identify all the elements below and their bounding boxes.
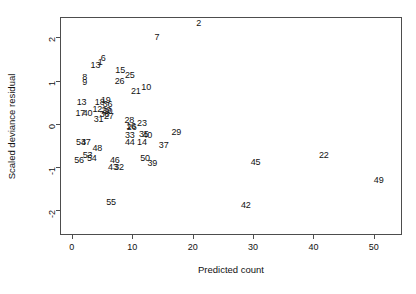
data-point-label: 37	[159, 141, 169, 150]
x-axis-tick-label: 50	[369, 242, 379, 252]
y-axis-tick-label: 2	[47, 37, 57, 42]
x-axis-tick-label: 40	[308, 242, 318, 252]
plot-area: 2761131525826910211913183612293017403827…	[61, 18, 401, 234]
y-axis-tick-label: -2	[47, 210, 57, 218]
data-point-label: 9	[82, 78, 87, 87]
data-point-label: 21	[131, 87, 141, 96]
data-point-label: 47	[81, 137, 91, 146]
y-axis-label-text: Scaled deviance residual	[7, 73, 18, 179]
data-point-label: 39	[147, 158, 157, 167]
x-axis-tick	[374, 234, 375, 239]
y-axis-tick-label: 1	[47, 81, 57, 86]
data-point-label: 13	[77, 98, 87, 107]
data-point-label: 13	[91, 61, 101, 70]
x-axis-tick-label: 10	[127, 242, 137, 252]
data-point-label: 56	[74, 156, 84, 165]
x-axis-tick	[193, 234, 194, 239]
x-axis-tick-label: 20	[188, 242, 198, 252]
x-axis-tick-label: 30	[248, 242, 258, 252]
data-point-label: 48	[92, 143, 102, 152]
x-axis-tick	[72, 234, 73, 239]
y-axis-label: Scaled deviance residual	[6, 17, 18, 235]
scatter-plot-figure: Scaled deviance residual 276113152582691…	[0, 0, 416, 294]
data-point-label: 32	[114, 163, 124, 172]
data-point-label: 29	[172, 128, 182, 137]
data-point-label: 42	[241, 201, 251, 210]
data-point-label: 15	[115, 65, 125, 74]
x-axis-tick	[132, 234, 133, 239]
data-point-label: 23	[137, 118, 147, 127]
data-point-label: 27	[104, 112, 114, 121]
data-point-label: 10	[141, 83, 151, 92]
x-axis-tick	[313, 234, 314, 239]
y-axis-tick-label: 0	[47, 124, 57, 129]
x-axis-tick-label: 0	[69, 242, 74, 252]
data-point-label: 54	[87, 154, 97, 163]
x-axis-tick	[253, 234, 254, 239]
plot-frame: 2761131525826910211913183612293017403827…	[60, 17, 402, 235]
data-point-label: 2	[196, 19, 201, 28]
data-point-label: 31	[94, 115, 104, 124]
data-point-label: 44	[125, 137, 135, 146]
data-point-label: 22	[319, 150, 329, 159]
data-point-label: 25	[125, 70, 135, 79]
data-point-label: 7	[155, 32, 160, 41]
data-point-label: 45	[251, 157, 261, 166]
data-point-label: 26	[115, 76, 125, 85]
data-point-label: 49	[374, 176, 384, 185]
y-axis-tick-label: -1	[47, 167, 57, 175]
data-point-label: 55	[106, 198, 116, 207]
x-axis-label: Predicted count	[60, 264, 402, 275]
data-point-label: 14	[137, 137, 147, 146]
data-point-label: 40	[83, 109, 93, 118]
